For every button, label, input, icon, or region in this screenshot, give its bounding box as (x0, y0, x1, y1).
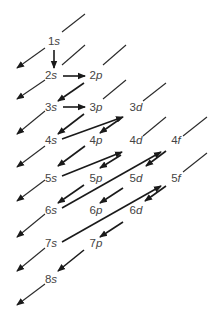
guide-line (103, 45, 126, 65)
guide-line (17, 248, 45, 271)
guide-line (183, 153, 207, 172)
filling-arrow (100, 222, 123, 237)
orbital-label-4p: 4p (90, 134, 103, 146)
aufbau-diagram: 1s2s2p3s3p3d4s4p4d4f5s5p5d5f6s6p6d7s7p8s (0, 0, 215, 317)
filling-arrow (58, 146, 85, 166)
filling-arrow (58, 250, 84, 271)
guide-lines (17, 14, 207, 305)
guide-line (17, 180, 45, 201)
orbital-label-5p: 5p (90, 172, 103, 184)
guide-line (103, 80, 126, 99)
orbital-label-8s: 8s (45, 273, 57, 285)
guide-line (62, 14, 85, 32)
guide-line (17, 48, 45, 68)
orbital-label-6s: 6s (45, 204, 57, 216)
orbital-label-2p: 2p (90, 69, 103, 81)
orbital-label-5f: 5f (171, 172, 182, 184)
guide-line (143, 83, 166, 101)
guide-line (17, 146, 45, 167)
filling-arrow (58, 114, 84, 134)
orbital-label-5s: 5s (45, 172, 57, 184)
orbital-label-4s: 4s (45, 134, 57, 146)
filling-arrows (54, 50, 166, 271)
filling-arrow (58, 185, 84, 203)
orbital-label-7s: 7s (45, 237, 57, 249)
guide-line (62, 45, 85, 65)
orbital-label-6d: 6d (130, 204, 143, 216)
guide-line (17, 214, 45, 237)
orbital-label-3p: 3p (90, 101, 103, 113)
filling-arrow (58, 83, 84, 101)
orbital-label-7p: 7p (90, 237, 103, 249)
orbital-label-3s: 3s (45, 101, 57, 113)
orbital-label-3d: 3d (130, 101, 143, 113)
orbital-label-4f: 4f (171, 134, 182, 146)
guide-line (183, 117, 207, 136)
orbital-label-2s: 2s (45, 69, 57, 81)
filling-arrow (62, 186, 161, 242)
orbital-label-1s: 1s (48, 35, 60, 47)
orbital-label-4d: 4d (130, 134, 143, 146)
guide-line (17, 284, 45, 305)
orbital-label-5d: 5d (130, 172, 143, 184)
orbital-label-6p: 6p (90, 204, 103, 216)
guide-line (17, 111, 45, 134)
guide-line (143, 117, 166, 136)
guide-line (17, 80, 45, 99)
filling-arrow (100, 188, 123, 203)
